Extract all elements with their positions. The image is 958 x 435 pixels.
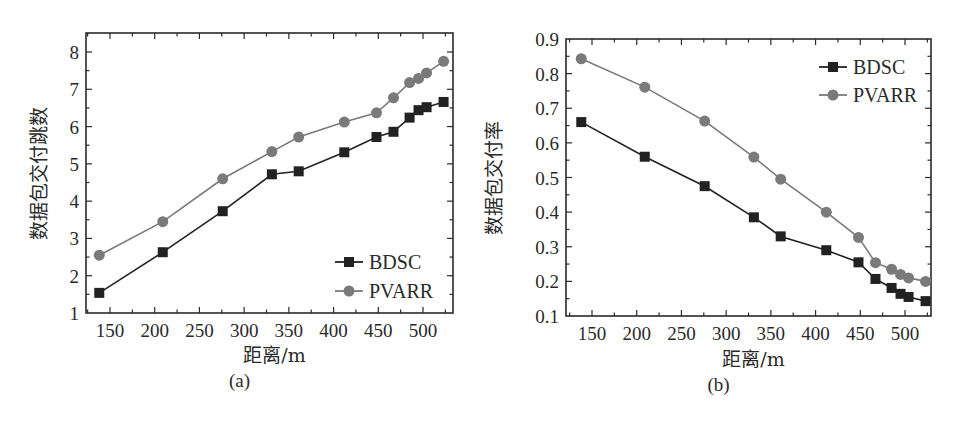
chart-panel-b: 1502002503003504004505000.10.20.30.40.50… [479, 0, 958, 435]
circle-marker [157, 216, 168, 227]
square-marker [94, 288, 104, 298]
y-tick-label: 0.4 [535, 202, 559, 223]
square-marker [439, 97, 449, 107]
y-tick-label: 0.9 [535, 29, 559, 50]
y-tick-label: 0.2 [535, 271, 559, 292]
square-marker [870, 274, 880, 284]
square-marker [422, 102, 432, 112]
x-tick-label: 200 [140, 320, 169, 341]
circle-marker [920, 276, 931, 287]
x-axis-title: 距离/m [722, 348, 784, 370]
square-marker [700, 181, 710, 191]
square-marker [576, 117, 586, 127]
x-tick-label: 400 [801, 323, 830, 344]
x-tick-label: 300 [230, 320, 259, 341]
square-marker [853, 257, 863, 267]
x-tick-label: 500 [409, 320, 438, 341]
circle-marker [266, 146, 277, 157]
x-tick-label: 350 [757, 323, 786, 344]
series-line-pvarr [99, 61, 443, 255]
circle-marker [576, 53, 587, 64]
circle-marker [821, 207, 832, 218]
legend-circle-icon [828, 90, 839, 101]
x-tick-label: 150 [96, 320, 125, 341]
y-tick-label: 1 [70, 303, 80, 324]
y-tick-label: 8 [70, 42, 80, 63]
square-marker [267, 169, 277, 179]
square-marker [339, 147, 349, 157]
square-marker [749, 212, 759, 222]
y-tick-label: 5 [70, 154, 80, 175]
circle-marker [421, 67, 432, 78]
y-tick-label: 7 [70, 79, 80, 100]
square-marker [776, 231, 786, 241]
y-tick-label: 0.3 [535, 237, 559, 258]
x-tick-label: 450 [846, 323, 875, 344]
y-tick-label: 2 [70, 266, 80, 287]
circle-marker [639, 82, 650, 93]
x-tick-label: 150 [578, 323, 607, 344]
chart-caption-b: (b) [479, 374, 958, 396]
legend-label-bdsc: BDSC [369, 251, 421, 273]
square-marker [158, 247, 168, 257]
y-tick-label: 0.1 [535, 306, 559, 327]
square-marker [218, 206, 228, 216]
square-marker [821, 245, 831, 255]
square-marker [921, 296, 931, 306]
circle-marker [903, 272, 914, 283]
y-axis-title: 数据包交付跳数 [28, 107, 50, 240]
x-axis-title: 距离/m [243, 344, 305, 366]
circle-marker [339, 117, 350, 128]
y-tick-label: 3 [70, 228, 80, 249]
line-chart-b: 1502002503003504004505000.10.20.30.40.50… [479, 0, 958, 435]
x-tick-label: 400 [319, 320, 348, 341]
square-marker [371, 132, 381, 142]
circle-marker [438, 56, 449, 67]
legend-square-icon [344, 257, 354, 267]
y-tick-label: 6 [70, 117, 80, 138]
y-tick-label: 0.6 [535, 133, 559, 154]
square-marker [904, 292, 914, 302]
chart-caption-a: (a) [0, 370, 479, 392]
y-tick-label: 0.8 [535, 64, 559, 85]
x-tick-label: 300 [712, 323, 741, 344]
circle-marker [775, 174, 786, 185]
legend-square-icon [828, 62, 838, 72]
x-tick-label: 450 [364, 320, 393, 341]
circle-marker [371, 107, 382, 118]
legend-circle-icon [344, 286, 355, 297]
circle-marker [748, 152, 759, 163]
legend-label-bdsc: BDSC [853, 56, 905, 78]
legend-label-pvarr: PVARR [853, 84, 918, 106]
x-tick-label: 500 [891, 323, 920, 344]
square-marker [294, 166, 304, 176]
square-marker [405, 113, 415, 123]
y-tick-label: 4 [70, 191, 80, 212]
square-marker [388, 127, 398, 137]
x-tick-label: 200 [622, 323, 651, 344]
circle-marker [870, 257, 881, 268]
circle-marker [217, 173, 228, 184]
square-marker [887, 283, 897, 293]
square-marker [640, 152, 650, 162]
x-tick-label: 250 [185, 320, 214, 341]
y-tick-label: 0.7 [535, 98, 559, 119]
y-axis-title: 数据包交付率 [483, 121, 505, 235]
x-tick-label: 250 [667, 323, 696, 344]
chart-panel-a: 15020025030035040045050012345678距离/m数据包交… [0, 0, 479, 435]
circle-marker [293, 132, 304, 143]
circle-marker [699, 116, 710, 127]
y-tick-label: 0.5 [535, 168, 559, 189]
legend-label-pvarr: PVARR [369, 280, 434, 302]
circle-marker [388, 92, 399, 103]
x-tick-label: 350 [275, 320, 304, 341]
circle-marker [94, 250, 105, 261]
circle-marker [853, 232, 864, 243]
